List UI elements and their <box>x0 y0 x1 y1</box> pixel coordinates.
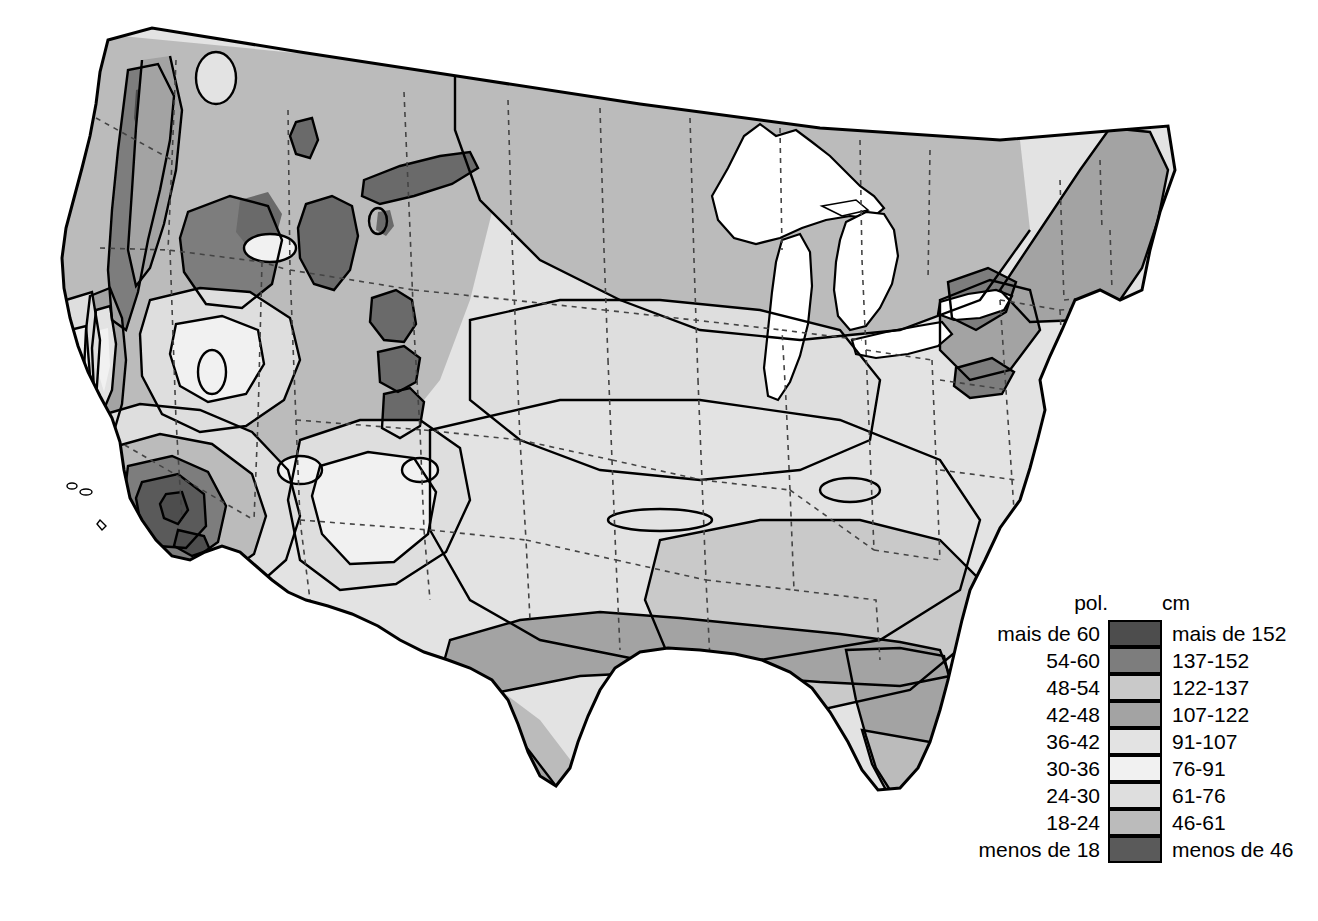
legend-label-cm: 91-107 <box>1162 730 1237 754</box>
legend-swatch <box>1108 728 1162 755</box>
legend-swatch <box>1108 647 1162 674</box>
legend-label-cm: 122-137 <box>1162 676 1249 700</box>
legend-swatch <box>1108 836 1162 863</box>
legend-label-cm: 76-91 <box>1162 757 1226 781</box>
legend-label-cm: 107-122 <box>1162 703 1249 727</box>
legend-row: mais de 60mais de 152 <box>940 620 1318 647</box>
legend-label-inches: 54-60 <box>940 649 1108 673</box>
legend-label-inches: mais de 60 <box>940 622 1108 646</box>
legend-label-cm: menos de 46 <box>1162 838 1293 862</box>
legend-row: 42-48107-122 <box>940 701 1318 728</box>
legend-label-inches: 42-48 <box>940 703 1108 727</box>
legend-row: menos de 18menos de 46 <box>940 836 1318 863</box>
legend-row: 24-3061-76 <box>940 782 1318 809</box>
legend-swatch <box>1108 674 1162 701</box>
precipitation-map-figure: pol. cm mais de 60mais de 15254-60137-15… <box>0 0 1318 921</box>
legend-label-inches: 36-42 <box>940 730 1108 754</box>
legend-label-cm: 46-61 <box>1162 811 1226 835</box>
legend-row: 48-54122-137 <box>940 674 1318 701</box>
legend-row: 30-3676-91 <box>940 755 1318 782</box>
legend-swatch <box>1108 701 1162 728</box>
legend-swatch <box>1108 755 1162 782</box>
legend-label-inches: menos de 18 <box>940 838 1108 862</box>
legend-swatch <box>1108 782 1162 809</box>
legend-label-inches: 18-24 <box>940 811 1108 835</box>
legend-swatch <box>1108 620 1162 647</box>
legend-row: 18-2446-61 <box>940 809 1318 836</box>
coastal-islands <box>67 483 106 530</box>
legend-rows: mais de 60mais de 15254-60137-15248-5412… <box>940 620 1318 863</box>
legend-swatch <box>1108 809 1162 836</box>
legend-label-inches: 30-36 <box>940 757 1108 781</box>
legend-header-cm: cm <box>1162 592 1282 613</box>
legend-label-cm: mais de 152 <box>1162 622 1286 646</box>
legend-label-inches: 48-54 <box>940 676 1108 700</box>
legend-header-inches: pol. <box>940 592 1108 613</box>
legend-row: 36-4291-107 <box>940 728 1318 755</box>
legend-row: 54-60137-152 <box>940 647 1318 674</box>
map-legend: pol. cm mais de 60mais de 15254-60137-15… <box>940 592 1318 887</box>
legend-label-cm: 137-152 <box>1162 649 1249 673</box>
legend-label-inches: 24-30 <box>940 784 1108 808</box>
legend-label-cm: 61-76 <box>1162 784 1226 808</box>
